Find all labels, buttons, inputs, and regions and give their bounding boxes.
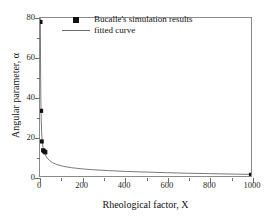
legend-entry-simulation: Bucalle's simulation results xyxy=(60,14,235,25)
y-tick-label: 60 xyxy=(27,53,36,62)
x-tick-label: 1000 xyxy=(244,181,261,190)
x-axis-tick-labels: 02004006008001000 xyxy=(39,181,252,193)
plot-area xyxy=(39,17,252,177)
x-tick-label: 800 xyxy=(203,181,216,190)
x-axis-title: Rheological factor, X xyxy=(39,199,252,210)
chart-legend: Bucalle's simulation results fitted curv… xyxy=(60,14,235,36)
y-tick-label: 0 xyxy=(31,173,35,182)
data-point xyxy=(40,109,43,113)
line-sample-icon xyxy=(60,30,92,31)
x-tick-label: 400 xyxy=(118,181,131,190)
y-tick-major xyxy=(35,178,40,179)
data-point xyxy=(40,20,43,24)
y-axis-title: Angular parameter, α xyxy=(10,11,21,181)
x-tick-label: 200 xyxy=(75,181,88,190)
fitted-curve-line xyxy=(40,18,251,174)
x-tick-label: 0 xyxy=(37,181,41,190)
data-point xyxy=(43,150,47,154)
data-point xyxy=(249,173,251,176)
data-point-markers xyxy=(40,20,251,176)
y-tick-label: 40 xyxy=(27,93,36,102)
x-tick-label: 600 xyxy=(160,181,173,190)
square-marker-icon xyxy=(60,17,92,23)
figure: 020406080 02004006008001000 Rheological … xyxy=(0,0,267,223)
data-point xyxy=(40,139,44,143)
legend-label-fitted-curve: fitted curve xyxy=(92,26,135,35)
y-tick-label: 80 xyxy=(27,13,36,22)
plot-canvas xyxy=(40,18,251,176)
legend-entry-fitted-curve: fitted curve xyxy=(60,25,235,36)
legend-label-simulation: Bucalle's simulation results xyxy=(92,15,193,24)
y-tick-label: 20 xyxy=(27,133,36,142)
